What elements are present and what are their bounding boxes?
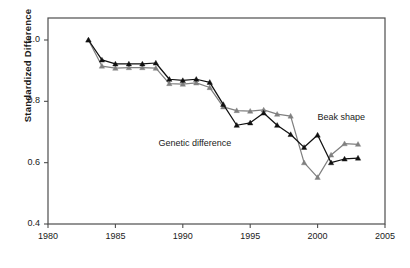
x-tick-label: 1990 <box>159 231 207 241</box>
y-tick-label: 0.4 <box>4 218 40 228</box>
series-1 <box>86 37 361 179</box>
x-tick-label: 2005 <box>361 231 409 241</box>
plot-canvas <box>0 0 410 268</box>
data-series-group <box>86 37 361 179</box>
x-tick-label: 1985 <box>91 231 139 241</box>
x-tick-label: 1980 <box>24 231 72 241</box>
chart-figure: Standardized Difference 0.40.60.81.01980… <box>0 0 410 268</box>
y-tick-label: 0.8 <box>4 95 40 105</box>
series-annotation-2: Genetic difference <box>158 138 231 148</box>
y-tick-label: 1.0 <box>4 34 40 44</box>
x-tick-label: 1995 <box>226 231 274 241</box>
y-tick-label: 0.6 <box>4 157 40 167</box>
series-annotation-1: Beak shape <box>318 112 366 122</box>
x-tick-label: 2000 <box>294 231 342 241</box>
axis-ticks <box>44 40 385 228</box>
